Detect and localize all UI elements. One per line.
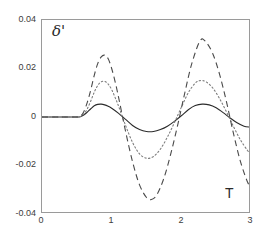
plot-area <box>41 19 250 213</box>
x-tick-label-0: 0 <box>29 216 53 225</box>
y-axis-label: δ' <box>52 24 65 39</box>
x-tick-label-3: 3 <box>238 216 262 225</box>
x-tick-label-1: 1 <box>99 216 123 225</box>
y-tick-label-2: 0 <box>0 112 36 121</box>
curves-svg <box>42 20 250 213</box>
x-axis-label: T <box>225 186 234 200</box>
y-tick-label-0: 0.04 <box>0 15 36 24</box>
y-tick-label-3: -0.02 <box>0 160 36 169</box>
series-line-solid <box>42 104 250 132</box>
series-line-dotted <box>42 80 250 158</box>
x-tick-label-2: 2 <box>169 216 193 225</box>
series-line-dashed <box>42 39 250 200</box>
figure: 0.04 0.02 0 -0.02 -0.04 0 1 2 3 δ' T <box>0 0 268 242</box>
y-tick-label-1: 0.02 <box>0 63 36 72</box>
